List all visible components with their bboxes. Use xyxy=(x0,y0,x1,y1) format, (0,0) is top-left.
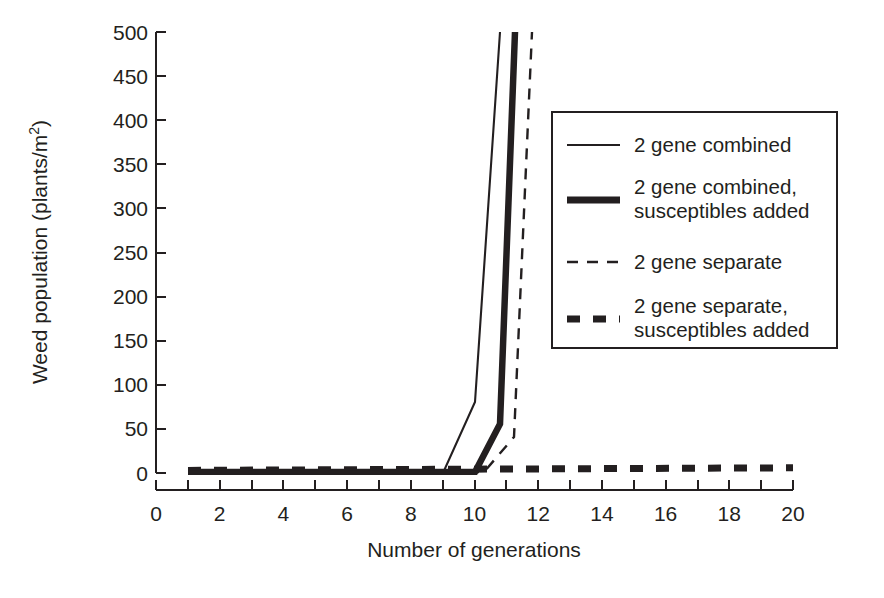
legend-label-line1: 2 gene separate, xyxy=(634,294,788,317)
x-tick-label: 12 xyxy=(527,502,550,525)
y-tick-label: 350 xyxy=(113,153,148,176)
y-tick-label: 50 xyxy=(125,417,148,440)
svg-text:Weed population (plants/m2): Weed population (plants/m2) xyxy=(26,120,51,384)
weed-population-chart: 0 50 100 150 200 250 300 350 400 450 500… xyxy=(0,0,884,598)
x-tick-label: 18 xyxy=(718,502,741,525)
x-axis-ticks xyxy=(156,480,793,490)
y-tick-label: 300 xyxy=(113,197,148,220)
x-tick-label: 14 xyxy=(590,502,614,525)
y-axis-ticks xyxy=(156,32,166,473)
y-tick-label: 150 xyxy=(113,329,148,352)
legend: 2 gene combined 2 gene combined, suscept… xyxy=(552,112,837,348)
y-tick-label: 500 xyxy=(113,21,148,44)
x-axis-title: Number of generations xyxy=(367,538,581,561)
y-axis-title-suffix: ) xyxy=(28,120,51,127)
y-tick-label: 450 xyxy=(113,65,148,88)
y-tick-label: 0 xyxy=(136,462,148,485)
x-tick-label: 0 xyxy=(150,502,162,525)
x-tick-label: 2 xyxy=(214,502,226,525)
y-axis-title-main: Weed population (plants/m xyxy=(28,135,51,384)
y-axis-title-superscript: 2 xyxy=(26,127,42,135)
y-axis: 0 50 100 150 200 250 300 350 400 450 500… xyxy=(26,21,166,485)
x-tick-label: 4 xyxy=(278,502,290,525)
series-2-gene-combined-susceptibles-added xyxy=(188,32,515,472)
figure-container: 0 50 100 150 200 250 300 350 400 450 500… xyxy=(0,0,884,598)
y-axis-title: Weed population (plants/m2) xyxy=(26,120,51,384)
y-axis-tick-labels: 0 50 100 150 200 250 300 350 400 450 500 xyxy=(113,21,148,485)
x-tick-label: 20 xyxy=(781,502,804,525)
series-2-gene-separate xyxy=(188,32,532,472)
x-tick-label: 16 xyxy=(654,502,677,525)
x-tick-label: 6 xyxy=(341,502,353,525)
legend-label-line2: susceptibles added xyxy=(634,318,810,341)
x-tick-label: 8 xyxy=(405,502,417,525)
legend-label-line1: 2 gene combined xyxy=(634,133,791,156)
legend-label-line1: 2 gene combined, xyxy=(634,175,797,198)
series-2-gene-combined xyxy=(188,32,500,473)
x-tick-label: 10 xyxy=(463,502,486,525)
y-tick-label: 400 xyxy=(113,109,148,132)
legend-label-line2: susceptibles added xyxy=(634,199,810,222)
legend-label-line1: 2 gene separate xyxy=(634,250,782,273)
y-tick-label: 100 xyxy=(113,373,148,396)
y-tick-label: 250 xyxy=(113,241,148,264)
x-axis-tick-labels: 0 2 4 6 8 10 12 14 16 18 20 xyxy=(150,502,805,525)
x-axis: 0 2 4 6 8 10 12 14 16 18 20 Number of ge… xyxy=(150,480,805,561)
y-tick-label: 200 xyxy=(113,285,148,308)
